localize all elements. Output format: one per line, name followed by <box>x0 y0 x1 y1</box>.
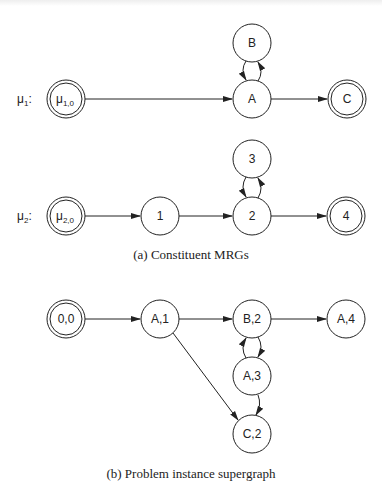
edge-B2-A3 <box>258 337 261 357</box>
mrg-diagram: μ1: μ2: μ1,0 B A C μ2,0 1 3 2 4 0,0 A,1 … <box>0 0 382 487</box>
svg-text:A,3: A,3 <box>243 369 261 383</box>
edge-A1-C2 <box>173 333 238 420</box>
svg-text:A,4: A,4 <box>337 312 355 326</box>
row-label-mu1: μ1: <box>17 92 32 108</box>
svg-text:2: 2 <box>249 209 256 223</box>
edge-A-B <box>258 62 261 81</box>
row-label-mu2: μ2: <box>17 209 32 225</box>
svg-text:B,2: B,2 <box>243 312 261 326</box>
svg-text:0,0: 0,0 <box>58 312 75 326</box>
svg-text:C: C <box>343 92 352 106</box>
svg-text:4: 4 <box>343 209 350 223</box>
caption-b: (b) Problem instance supergraph <box>0 466 382 482</box>
svg-text:μ1,0: μ1,0 <box>56 92 75 108</box>
svg-text:1: 1 <box>157 209 164 223</box>
edge-A3-C2 <box>256 395 260 415</box>
svg-text:3: 3 <box>249 152 256 166</box>
svg-text:A,1: A,1 <box>151 312 169 326</box>
edge-A3-B2 <box>243 338 246 358</box>
svg-text:C,2: C,2 <box>243 427 262 441</box>
svg-text:B: B <box>248 36 256 50</box>
caption-a: (a) Constituent MRGs <box>0 247 382 263</box>
svg-text:μ2,0: μ2,0 <box>56 209 75 225</box>
edge-B-A <box>243 61 246 80</box>
svg-text:A: A <box>248 92 256 106</box>
